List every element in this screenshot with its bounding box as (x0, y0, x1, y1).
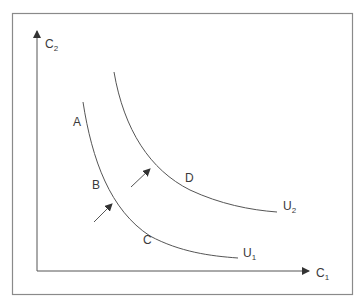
point-label-a: A (73, 115, 81, 129)
y-axis-label: C2 (45, 37, 59, 53)
curve-label-u1: U1 (243, 246, 257, 262)
curve-label-u2: U2 (283, 199, 297, 215)
diagram-canvas: C2 C1 U1 U2 A B C D (0, 0, 362, 303)
diagram-frame (13, 14, 353, 295)
x-axis-label: C1 (316, 266, 330, 282)
shift-arrow-upper-icon (131, 169, 150, 187)
point-label-c: C (143, 233, 152, 247)
shift-arrow-lower-icon (94, 204, 112, 222)
indifference-curve-u2 (114, 72, 277, 212)
point-label-d: D (185, 171, 194, 185)
point-label-b: B (92, 178, 100, 192)
indifference-curve-u1 (83, 102, 238, 258)
